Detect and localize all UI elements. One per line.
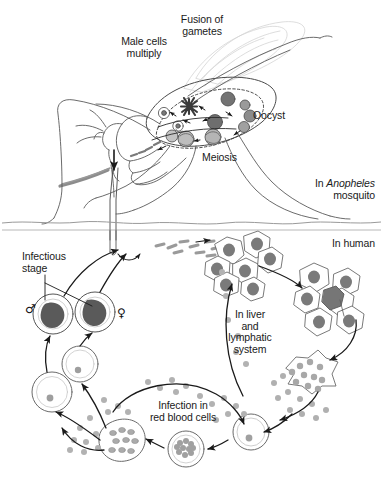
female-symbol-icon: ♀: [117, 307, 126, 319]
label-in-anopheles-mosquito: In Anophelesmosquito: [255, 178, 375, 201]
malaria-life-cycle-figure: Male cellsmultiply Fusion ofgametes Oocy…: [0, 0, 383, 488]
rbc-early-ring-lower: [32, 372, 72, 412]
label-oocyst: Oocyst: [253, 110, 313, 122]
rbc-merozoites: [109, 427, 139, 453]
skin-boundary-line: [2, 222, 381, 230]
label-male-cells-multiply: Male cellsmultiply: [104, 36, 184, 59]
male-symbol-icon: ♂: [25, 303, 36, 315]
label-mosquito-suffix: mosquito: [333, 189, 375, 201]
label-fusion-of-gametes: Fusion ofgametes: [164, 14, 240, 37]
rbc-early-ring-upper: [62, 346, 98, 382]
label-in-human: In human: [275, 238, 375, 250]
label-in-anopheles-prefix: In: [315, 177, 326, 189]
label-meiosis: Meiosis: [202, 152, 262, 164]
label-infectious-stage: Infectiousstage: [22, 251, 102, 274]
label-in-liver-and-lymphatic-system: In liverandlymphaticsystem: [218, 309, 282, 355]
mosquito-drawing: [42, 22, 350, 240]
label-infection-in-red-blood-cells: Infection inred blood cells: [134, 400, 232, 423]
label-anopheles-italic: Anopheles: [326, 177, 375, 189]
